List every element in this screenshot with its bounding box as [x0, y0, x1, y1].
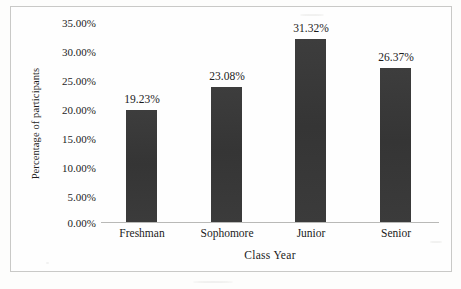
scan-speck — [46, 262, 49, 264]
scan-speck — [430, 241, 442, 243]
y-tick-label: 25.00% — [40, 76, 96, 87]
y-axis-tick-labels: 35.00% 30.00% 25.00% 20.00% 15.00% 10.00… — [38, 0, 96, 289]
scanned-page-background: Percentage of participants 35.00% 30.00%… — [0, 0, 461, 289]
y-tick-label: 20.00% — [40, 105, 96, 116]
y-tick-label: 10.00% — [40, 163, 96, 174]
x-axis-title: Class Year — [101, 249, 439, 261]
y-tick-label: 30.00% — [40, 47, 96, 58]
y-tick-label: 5.00% — [40, 192, 96, 203]
bar-chart: Percentage of participants 35.00% 30.00%… — [0, 0, 461, 289]
x-axis-tick-labels: Freshman Sophomore Junior Senior — [101, 0, 439, 289]
x-tick-label-senior: Senior — [346, 228, 446, 240]
y-tick-label: 15.00% — [40, 134, 96, 145]
scan-speck — [300, 14, 324, 16]
y-tick-label: 0.00% — [40, 218, 96, 229]
y-tick-label: 35.00% — [40, 18, 96, 29]
scan-speck — [193, 281, 233, 283]
